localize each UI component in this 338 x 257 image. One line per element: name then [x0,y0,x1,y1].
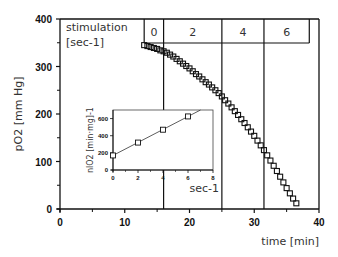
y-tick-label: 300 [35,62,52,73]
inset-x-axis-label: sec-1 [189,182,219,195]
data-point [268,158,273,163]
x-tick-label: 10 [119,217,131,228]
x-tick-label: 40 [313,217,325,228]
stimulation-rate-label: 0 [150,26,157,39]
stimulation-rate-label: 2 [189,26,196,39]
inset-y-tick-label: 600 [98,116,109,122]
inset-y-tick-label: 200 [98,150,109,156]
x-tick-label: 30 [249,217,261,228]
inset-frame [113,110,213,170]
data-point [287,191,292,196]
data-point [164,50,169,55]
data-point [168,52,173,57]
data-point [274,169,279,174]
inset-x-tick-label: 6 [186,175,190,181]
x-tick-label: 0 [57,217,63,228]
data-point [271,163,276,168]
data-point [281,180,286,185]
x-tick-label: 20 [184,217,196,228]
inset-y-tick-label: 0 [105,167,109,173]
stimulation-rate-label: 6 [283,26,290,39]
pO2-time-chart: 0100200300400010203040time [min]pO2 [mm … [0,0,338,257]
inset-x-tick-label: 2 [136,175,140,181]
stimulation-rate-label: 4 [239,26,246,39]
stimulation-label: stimulation [66,21,128,34]
y-tick-label: 400 [35,14,52,25]
data-point [265,153,270,158]
inset-y-tick-label: 400 [98,133,109,139]
y-tick-label: 100 [35,157,52,168]
y-tick-label: 0 [46,204,52,215]
inset-data-point [186,114,191,119]
inset-data-point [161,127,166,132]
inset-x-tick-label: 8 [211,175,215,181]
data-point [278,174,283,179]
y-axis-label: pO2 [mm Hg] [12,77,25,152]
x-axis-label: time [min] [261,235,319,248]
inset-data-point [136,140,141,145]
inset-x-tick-label: 0 [111,175,115,181]
stimulation-unit: [sec-1] [66,36,104,49]
data-point [284,186,289,191]
inset-data-point [111,153,116,158]
inset-x-tick-label: 4 [161,175,165,181]
y-tick-label: 200 [35,109,52,120]
inset-y-axis-label: nlO2 [min·mg]-1 [86,107,95,173]
